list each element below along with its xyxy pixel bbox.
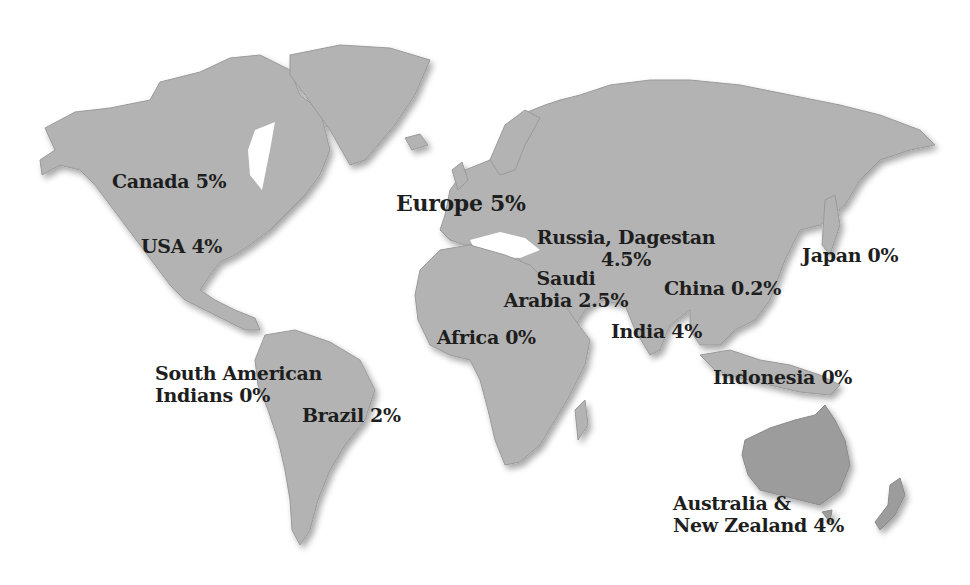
label-africa: Africa 0% xyxy=(437,326,536,348)
label-south-american-indians: South American Indians 0% xyxy=(155,362,322,406)
label-usa: USA 4% xyxy=(141,235,222,257)
label-russia-dagestan: Russia, Dagestan 4.5% xyxy=(532,226,720,270)
label-saudi-arabia: Saudi Arabia 2.5% xyxy=(498,267,634,311)
label-canada: Canada 5% xyxy=(112,170,226,192)
label-china: China 0.2% xyxy=(664,277,781,299)
label-europe: Europe 5% xyxy=(396,190,526,216)
label-australia-new-zealand: Australia & New Zealand 4% xyxy=(673,492,844,536)
world-map: Canada 5% USA 4% Europe 5% Russia, Dages… xyxy=(0,0,970,585)
label-japan: Japan 0% xyxy=(802,244,898,266)
label-indonesia: Indonesia 0% xyxy=(713,366,852,388)
label-india: India 4% xyxy=(611,320,702,342)
north-america-shape xyxy=(40,55,330,330)
label-brazil: Brazil 2% xyxy=(302,404,401,426)
australia-shape xyxy=(742,405,850,505)
